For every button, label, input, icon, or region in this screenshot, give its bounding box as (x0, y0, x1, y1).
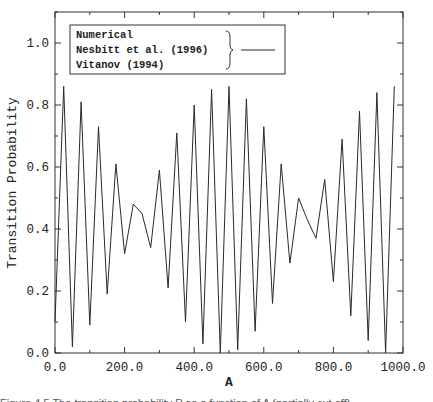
figure-caption-text: Figure 4.5 The transition probability P … (0, 396, 433, 402)
x-tick-label: 600.0 (245, 361, 283, 375)
x-tick-label: 800.0 (315, 361, 353, 375)
y-tick-label: 0.8 (26, 99, 49, 113)
legend-entry-nesbitt: Nesbitt et al. (1996) (76, 44, 208, 56)
x-tick-label: 0.0 (44, 361, 67, 375)
x-tick-label: 200.0 (106, 361, 144, 375)
legend-entry-numerical: Numerical (76, 29, 133, 41)
y-tick-label: 0.2 (26, 285, 49, 299)
x-tick-label: 1000.0 (380, 361, 425, 375)
legend-entry-vitanov: Vitanov (1994) (76, 59, 164, 71)
x-axis-title: A (225, 375, 233, 390)
transition-probability-chart: 0.00.20.40.60.81.0 0.0200.0400.0600.0800… (0, 0, 433, 402)
figure-caption: Figure 4.5 The transition probability P … (0, 396, 433, 402)
legend: Numerical Nesbitt et al. (1996) Vitanov … (70, 25, 285, 74)
y-tick-label: 0.4 (26, 223, 49, 237)
x-tick-label: 400.0 (175, 361, 213, 375)
y-axis-title: Transition Probability (5, 97, 20, 269)
y-tick-label: 0.0 (26, 347, 49, 361)
data-series-line (55, 86, 394, 353)
y-tick-label: 1.0 (26, 37, 49, 51)
y-tick-label: 0.6 (26, 161, 49, 175)
